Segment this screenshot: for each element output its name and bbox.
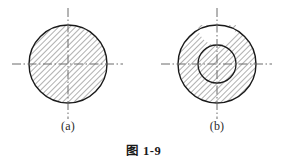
technical-drawing-figure: (a) (b) 图 1-9 — [0, 0, 287, 162]
figure-caption: 图 1-9 — [0, 140, 287, 159]
part-a-label: (a) — [38, 120, 98, 132]
part-a-group — [12, 8, 123, 119]
section-view-drawing — [0, 0, 287, 162]
part-b-label: (b) — [187, 120, 247, 132]
part-b-group — [161, 8, 272, 119]
